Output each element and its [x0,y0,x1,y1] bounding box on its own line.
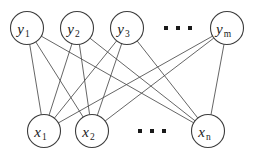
node-circle-y2[interactable] [61,12,94,45]
bottom-ellipsis-dot-3 [162,129,166,133]
node-xn[interactable]: xn [192,115,225,148]
top-ellipsis-dot-2 [176,26,180,30]
edge-y1-x1 [30,44,42,114]
bottom-ellipsis-dot-1 [138,129,142,133]
node-subscript-x2: 2 [90,132,95,142]
graph-canvas: y1y2y3ymx1x2xn [0,0,257,159]
edge-y1-xn [41,36,193,123]
node-circle-xn[interactable] [192,115,225,148]
edge-ym-x1 [58,36,212,123]
edge-y3-xn [137,41,198,118]
top-ellipsis-dot-1 [164,26,168,30]
node-subscript-y2: 2 [75,29,80,39]
edges-group [30,36,224,123]
node-x1[interactable]: x1 [28,115,61,148]
node-circle-y3[interactable] [111,12,144,45]
edge-y2-x2 [79,44,89,114]
nodes-group: y1y2y3ymx1x2xn [11,12,244,148]
node-y3[interactable]: y3 [111,12,144,45]
edge-y3-x1 [54,41,116,118]
edge-y2-x1 [49,44,72,116]
node-subscript-xn: n [206,132,211,142]
node-subscript-y1: 1 [25,29,30,39]
node-subscript-x1: 1 [42,132,47,142]
edge-y1-x2 [36,42,83,117]
node-circle-y1[interactable] [11,12,44,45]
bipartite-graph-diagram: y1y2y3ymx1x2xn [0,0,257,159]
edge-ym-x2 [105,38,214,121]
node-y1[interactable]: y1 [11,12,44,45]
edge-ym-xn [211,44,224,115]
node-ym[interactable]: ym [211,12,244,45]
top-ellipsis-dot-3 [188,26,192,30]
bottom-ellipsis-dot-2 [150,129,154,133]
node-x2[interactable]: x2 [76,115,109,148]
node-y2[interactable]: y2 [61,12,94,45]
node-circle-x2[interactable] [76,115,109,148]
node-subscript-y3: 3 [125,29,130,39]
node-subscript-ym: m [224,29,232,39]
node-circle-x1[interactable] [28,115,61,148]
edge-y2-xn [90,38,195,121]
